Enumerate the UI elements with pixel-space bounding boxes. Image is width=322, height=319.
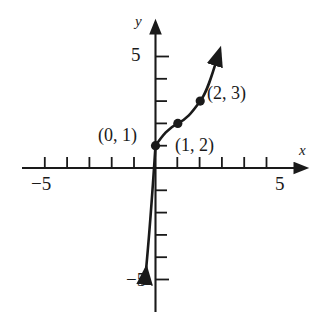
point-label-0-1: (0, 1)	[98, 126, 137, 144]
x-axis-label: x	[299, 143, 306, 158]
y-axis	[156, 32, 170, 312]
coordinate-plane	[0, 0, 322, 319]
point-label-2-3: (2, 3)	[207, 84, 246, 102]
point-1-2	[173, 119, 182, 128]
graph-figure: x y −5 5 5 −5 (0, 1) (1, 2) (2, 3)	[0, 0, 322, 319]
x-tick-label-pos-5: 5	[275, 174, 285, 193]
x-tick-label-neg-5: −5	[31, 174, 51, 193]
y-tick-label-neg-5: −5	[126, 270, 146, 289]
point-label-1-2: (1, 2)	[175, 136, 214, 154]
curve-upper-branch	[156, 62, 217, 146]
y-axis-label: y	[135, 14, 142, 29]
x-axis	[22, 157, 296, 168]
curve-lower-branch	[145, 146, 156, 281]
y-tick-label-pos-5: 5	[131, 45, 141, 64]
point-0-1	[151, 141, 160, 150]
point-2-3	[196, 97, 205, 106]
